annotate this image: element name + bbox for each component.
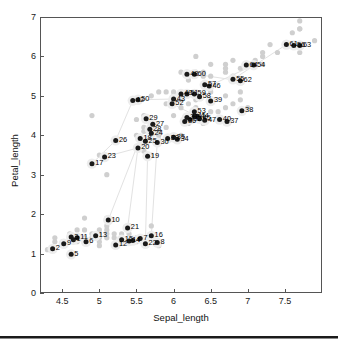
footer-divider-shadow: [0, 338, 338, 339]
y-tick-label: 0: [31, 289, 36, 298]
labeled-data-point[interactable]: [130, 98, 135, 103]
data-point-label: 54: [257, 61, 265, 68]
background-data-point: [193, 54, 198, 59]
labeled-data-point[interactable]: [230, 77, 235, 82]
labeled-data-point[interactable]: [182, 119, 187, 124]
x-tick-mark: [62, 289, 63, 293]
data-point-label: 23: [108, 153, 116, 160]
data-point-label: 10: [111, 216, 119, 223]
background-data-point: [52, 235, 57, 240]
data-point-label: 59: [198, 90, 206, 97]
y-tick-mark: [40, 56, 44, 57]
scatter-plot-figure: 1234567891011121314151617181920212223242…: [0, 0, 338, 349]
data-point-label: 26: [119, 136, 127, 143]
background-data-point: [112, 231, 117, 236]
background-data-point: [230, 101, 235, 106]
data-point-label: 13: [99, 232, 107, 239]
x-tick-mark: [136, 289, 137, 293]
background-data-point: [267, 42, 272, 47]
link-line: [128, 148, 138, 228]
x-tick-mark: [285, 289, 286, 293]
background-data-point: [82, 215, 87, 220]
x-tick-label: 6.5: [204, 297, 217, 306]
labeled-data-point[interactable]: [125, 225, 130, 230]
data-point-label: 3: [74, 233, 78, 240]
data-point-label: 63: [303, 41, 311, 48]
labeled-data-point[interactable]: [69, 252, 74, 257]
labeled-data-point[interactable]: [106, 218, 111, 223]
background-data-point: [104, 172, 109, 177]
background-data-point: [171, 89, 176, 94]
background-data-point: [216, 109, 221, 114]
background-data-point: [290, 30, 295, 35]
background-data-point: [230, 58, 235, 63]
labeled-data-point[interactable]: [170, 101, 175, 106]
y-tick-mark: [40, 96, 44, 97]
y-tick-mark: [40, 214, 44, 215]
y-tick-mark: [40, 17, 44, 18]
labeled-data-point[interactable]: [217, 117, 222, 122]
labeled-data-point[interactable]: [113, 138, 118, 143]
x-tick-mark: [99, 289, 100, 293]
labeled-data-point[interactable]: [284, 42, 289, 47]
data-point-label: 6: [89, 238, 93, 245]
x-tick-label: 5.5: [130, 297, 143, 306]
labeled-data-point[interactable]: [61, 241, 66, 246]
data-point-label: 11: [80, 234, 88, 241]
background-data-point: [164, 89, 169, 94]
background-data-point: [149, 223, 154, 228]
data-point-label: 50: [141, 96, 149, 103]
labeled-data-point[interactable]: [202, 82, 207, 87]
data-point-label: 36: [188, 117, 196, 124]
link-line: [145, 156, 147, 244]
y-tick-mark: [40, 175, 44, 176]
y-tick-label: 7: [31, 13, 36, 22]
y-axis-title: Petal_length: [9, 121, 20, 201]
data-point-label: 37: [230, 117, 238, 124]
y-tick-label: 4: [31, 131, 36, 140]
data-point-label: 25: [149, 137, 157, 144]
background-data-point: [223, 62, 228, 67]
x-axis-title: Sepal_length: [40, 312, 322, 323]
labeled-data-point[interactable]: [244, 63, 249, 68]
background-data-point: [260, 50, 265, 55]
background-data-point: [164, 125, 169, 130]
x-tick-label: 7: [245, 297, 250, 306]
labeled-data-point[interactable]: [138, 136, 143, 141]
x-tick-label: 4.5: [56, 297, 69, 306]
data-point-label: 61: [290, 40, 298, 47]
labeled-data-point[interactable]: [144, 116, 149, 121]
y-tick-mark: [40, 293, 44, 294]
y-tick-label: 1: [31, 249, 36, 258]
data-point-label: 39: [214, 97, 222, 104]
labeled-data-point[interactable]: [113, 242, 118, 247]
data-point-label: 57: [208, 81, 216, 88]
labeled-data-point[interactable]: [239, 108, 244, 113]
data-point-label: 21: [131, 224, 139, 231]
data-point-label: 15: [125, 236, 133, 243]
data-point-label: 29: [149, 115, 157, 122]
background-data-point: [134, 117, 139, 122]
x-tick-label: 7.5: [279, 297, 292, 306]
data-point-label: 30: [160, 138, 168, 145]
data-point-label: 53: [198, 107, 206, 114]
data-point-label: 9: [67, 240, 71, 247]
data-point-label: 40: [223, 115, 231, 122]
labeled-data-point[interactable]: [147, 127, 152, 132]
labeled-data-point[interactable]: [145, 154, 150, 159]
y-tick-mark: [40, 135, 44, 136]
background-data-point: [208, 74, 213, 79]
labeled-data-point[interactable]: [89, 161, 94, 166]
background-data-point: [149, 93, 154, 98]
labeled-data-point[interactable]: [135, 145, 140, 150]
labeled-data-point[interactable]: [184, 72, 189, 77]
background-data-point: [297, 18, 302, 23]
labeled-data-point[interactable]: [50, 246, 55, 251]
background-data-point: [156, 89, 161, 94]
labeled-data-point[interactable]: [93, 233, 98, 238]
data-point-label: 17: [95, 159, 103, 166]
background-data-point: [89, 113, 94, 118]
background-data-point: [238, 89, 243, 94]
background-data-point: [297, 26, 302, 31]
background-data-point: [297, 50, 302, 55]
